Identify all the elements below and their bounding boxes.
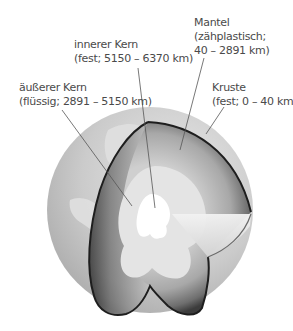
label-outer-core-detail: (flüssig; 2891 – 5150 km) <box>19 95 152 109</box>
label-crust-name: Kruste <box>212 81 293 95</box>
label-inner-core: innerer Kern (fest; 5150 – 6370 km) <box>74 38 193 66</box>
leader-line-crust <box>206 107 224 134</box>
label-mantel: Mantel (zähplastisch; 40 – 2891 km) <box>194 16 269 58</box>
label-mantel-detail-2: 40 – 2891 km) <box>194 44 269 58</box>
label-mantel-detail-1: (zähplastisch; <box>194 30 269 44</box>
label-inner-core-name: innerer Kern <box>74 38 193 52</box>
label-inner-core-detail: (fest; 5150 – 6370 km) <box>74 52 193 66</box>
earth-layers-diagram: Mantel (zähplastisch; 40 – 2891 km) inne… <box>0 0 293 331</box>
label-crust: Kruste (fest; 0 – 40 km) <box>212 81 293 109</box>
label-crust-detail: (fest; 0 – 40 km) <box>212 95 293 109</box>
label-outer-core: äußerer Kern (flüssig; 2891 – 5150 km) <box>19 81 152 109</box>
label-mantel-name: Mantel <box>194 16 269 30</box>
label-outer-core-name: äußerer Kern <box>19 81 152 95</box>
